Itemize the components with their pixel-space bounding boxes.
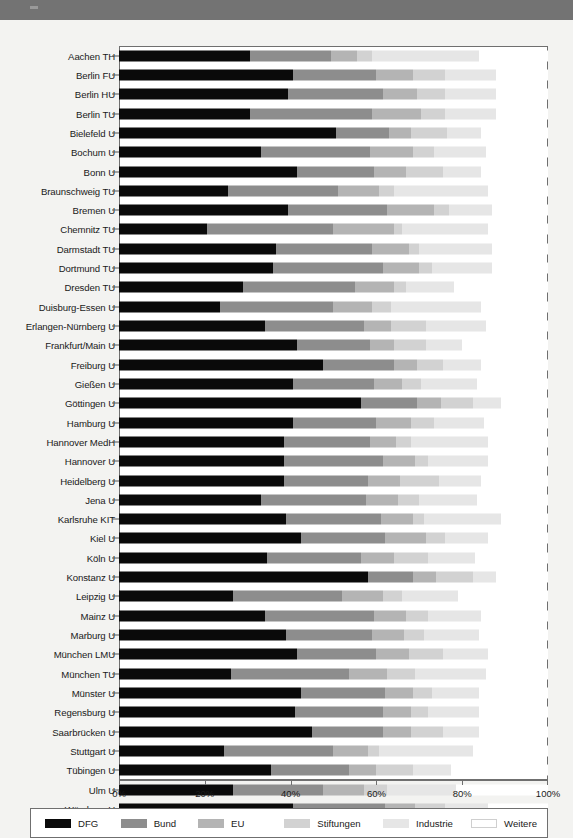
stacked-bar: [119, 572, 548, 583]
bar-segment-bund: [368, 572, 413, 583]
bar-row: Darmstadt TU: [0, 239, 573, 258]
bar-segment-weitere: [488, 224, 548, 235]
category-label: Erlangen-Nürnberg U: [26, 321, 115, 332]
legend-item-weitere[interactable]: Weitere: [471, 818, 537, 829]
bar-segment-stiftungen: [417, 359, 443, 370]
category-label: Stuttgart U: [70, 745, 115, 756]
bar-segment-bund: [250, 50, 332, 61]
bar-segment-bund: [207, 224, 334, 235]
legend-item-eu[interactable]: EU: [198, 818, 274, 829]
category-label: Tübingen U: [66, 765, 115, 776]
y-axis-tick: [112, 287, 119, 288]
y-axis-tick: [112, 480, 119, 481]
legend-item-stiftungen[interactable]: Stiftungen: [284, 818, 373, 829]
legend-item-bund[interactable]: Bund: [121, 818, 188, 829]
bar-row: Bonn U: [0, 162, 573, 181]
legend-swatch-industrie: [383, 819, 409, 828]
stacked-bar: [119, 340, 548, 351]
bar-segment-industrie: [413, 765, 452, 776]
y-axis-tick: [112, 113, 119, 114]
stacked-bar: [119, 494, 548, 505]
bar-segment-bund: [284, 456, 383, 467]
x-axis-tick-label: 80%: [453, 788, 472, 799]
bar-segment-bund: [233, 784, 323, 795]
stacked-bar: [119, 533, 548, 544]
x-axis-tick-label: 100%: [536, 788, 560, 799]
bar-segment-stiftungen: [419, 263, 432, 274]
x-axis-tick-label: 0%: [112, 788, 126, 799]
bar-segment-eu: [372, 243, 408, 254]
bar-segment-weitere: [475, 552, 548, 563]
bar-segment-eu: [383, 707, 411, 718]
stacked-bar: [119, 475, 548, 486]
bar-segment-weitere: [488, 436, 548, 447]
legend-label: Bund: [154, 818, 176, 829]
bar-row: Göttingen U: [0, 394, 573, 413]
legend-item-industrie[interactable]: Industrie: [383, 818, 461, 829]
bar-segment-bund: [265, 610, 374, 621]
category-label: Hannover U: [65, 456, 115, 467]
y-axis-tick: [112, 55, 119, 56]
bar-segment-bund: [284, 475, 368, 486]
legend-label: EU: [231, 818, 244, 829]
category-label: Münster U: [72, 687, 115, 698]
bar-row: Regensburg U: [0, 703, 573, 722]
legend-item-dfg[interactable]: DFG: [45, 818, 111, 829]
bar-segment-bund: [231, 668, 349, 679]
stacked-bar: [119, 765, 548, 776]
bar-segment-dfg: [119, 205, 288, 216]
bar-segment-dfg: [119, 243, 276, 254]
bar-segment-weitere: [492, 263, 548, 274]
bar-segment-eu: [366, 494, 398, 505]
bar-segment-bund: [273, 263, 382, 274]
bar-segment-weitere: [479, 50, 548, 61]
x-axis-tick: [205, 780, 206, 785]
category-label: Bochum U: [71, 147, 115, 158]
bar-segment-bund: [228, 185, 337, 196]
bar-segment-weitere: [451, 765, 548, 776]
bar-segment-dfg: [119, 69, 293, 80]
stacked-bar: [119, 707, 548, 718]
bar-row: Erlangen-Nürnberg U: [0, 316, 573, 335]
y-axis-tick: [112, 654, 119, 655]
bar-segment-dfg: [119, 166, 297, 177]
bar-segment-stiftungen: [394, 282, 407, 293]
bar-segment-eu: [374, 166, 406, 177]
bar-segment-dfg: [119, 668, 231, 679]
stacked-bar: [119, 321, 548, 332]
bar-segment-eu: [333, 224, 393, 235]
chart-legend: DFGBundEUStiftungenIndustrieWeitere: [30, 808, 548, 838]
y-axis-tick: [112, 171, 119, 172]
bar-segment-industrie: [428, 707, 479, 718]
x-axis-tick-label: 40%: [281, 788, 300, 799]
bar-segment-industrie: [449, 205, 492, 216]
bar-segment-bund: [288, 205, 387, 216]
bar-segment-weitere: [481, 359, 547, 370]
bar-segment-bund: [250, 108, 372, 119]
bar-segment-eu: [394, 359, 418, 370]
stacked-bar: [119, 378, 548, 389]
bar-segment-bund: [284, 436, 370, 447]
stacked-bar: [119, 359, 548, 370]
bar-row: München LMU: [0, 645, 573, 664]
category-label: Braunschweig TU: [41, 185, 115, 196]
bar-segment-stiftungen: [368, 745, 379, 756]
bar-segment-dfg: [119, 649, 297, 660]
y-axis-tick: [112, 750, 119, 751]
bar-segment-dfg: [119, 50, 250, 61]
y-axis-tick: [112, 364, 119, 365]
bar-segment-industrie: [432, 687, 479, 698]
bar-segment-bund: [293, 69, 377, 80]
bar-row: Marburg U: [0, 625, 573, 644]
bar-segment-dfg: [119, 301, 220, 312]
bar-segment-weitere: [486, 147, 548, 158]
bar-segment-eu: [376, 69, 412, 80]
y-axis-tick: [112, 499, 119, 500]
y-axis-tick: [112, 326, 119, 327]
bar-row: Jena U: [0, 490, 573, 509]
bar-segment-dfg: [119, 765, 271, 776]
category-label: Berlin FU: [76, 69, 115, 80]
bar-segment-industrie: [445, 108, 496, 119]
stacked-bar: [119, 630, 548, 641]
bar-segment-weitere: [492, 243, 548, 254]
